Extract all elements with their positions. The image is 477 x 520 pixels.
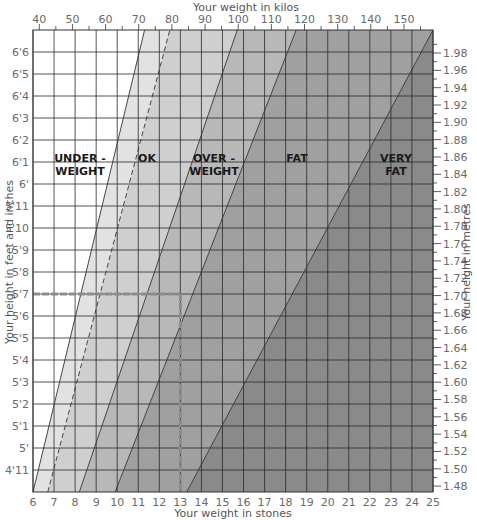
kilo-tick-label: 50 bbox=[65, 13, 79, 26]
zone-label-overweight: OVER - bbox=[193, 152, 235, 165]
zone-label-underweight: UNDER - bbox=[54, 152, 106, 165]
height-ft-tick-label: 6'3 bbox=[12, 112, 29, 125]
stone-tick-label: 25 bbox=[426, 496, 440, 509]
stone-tick-label: 21 bbox=[342, 496, 356, 509]
kilo-tick-label: 80 bbox=[165, 13, 179, 26]
kilo-tick-label: 70 bbox=[132, 13, 146, 26]
stone-tick-label: 24 bbox=[405, 496, 419, 509]
kilo-tick-label: 140 bbox=[360, 13, 381, 26]
stone-tick-label: 7 bbox=[51, 496, 58, 509]
y2-axis-title: Your height in metres bbox=[460, 203, 473, 322]
height-ft-tick-label: 5' bbox=[19, 442, 29, 455]
height-m-tick-label: 1.66 bbox=[443, 324, 468, 337]
height-ft-tick-label: 6' bbox=[19, 178, 29, 191]
height-ft-tick-label: 6'4 bbox=[12, 90, 29, 103]
kilo-tick-label: 120 bbox=[294, 13, 315, 26]
height-m-tick-label: 1.88 bbox=[443, 134, 468, 147]
kilo-tick-label: 60 bbox=[99, 13, 113, 26]
height-m-tick-label: 1.64 bbox=[443, 342, 468, 355]
kilo-tick-label: 150 bbox=[393, 13, 414, 26]
height-m-tick-label: 1.54 bbox=[443, 428, 468, 441]
height-m-tick-label: 1.92 bbox=[443, 99, 468, 112]
height-ft-tick-label: 5'2 bbox=[12, 398, 29, 411]
stone-tick-label: 8 bbox=[72, 496, 79, 509]
x2-axis-title: Your weight in kilos bbox=[192, 1, 299, 14]
height-m-tick-label: 1.50 bbox=[443, 463, 468, 476]
kilo-tick-label: 130 bbox=[327, 13, 348, 26]
stone-tick-label: 10 bbox=[110, 496, 124, 509]
zone-label-fat: FAT bbox=[286, 152, 308, 165]
stone-tick-label: 9 bbox=[93, 496, 100, 509]
stone-tick-label: 22 bbox=[363, 496, 377, 509]
stone-tick-label: 20 bbox=[321, 496, 335, 509]
height-m-tick-label: 1.98 bbox=[443, 47, 468, 60]
height-m-tick-label: 1.56 bbox=[443, 411, 468, 424]
kilo-tick-label: 40 bbox=[32, 13, 46, 26]
stone-tick-label: 19 bbox=[300, 496, 314, 509]
zone-label-line2: WEIGHT bbox=[55, 165, 105, 178]
height-m-tick-label: 1.62 bbox=[443, 359, 468, 372]
y-axis-title: Your height in feet and inches bbox=[3, 180, 16, 345]
height-ft-tick-label: 4'11 bbox=[5, 464, 29, 477]
stone-tick-label: 12 bbox=[152, 496, 166, 509]
stone-tick-label: 23 bbox=[384, 496, 398, 509]
height-ft-tick-label: 6'2 bbox=[12, 134, 29, 147]
height-ft-tick-label: 6'5 bbox=[12, 68, 29, 81]
height-m-tick-label: 1.94 bbox=[443, 82, 468, 95]
zone-bands bbox=[33, 30, 433, 492]
kilo-tick-label: 100 bbox=[228, 13, 249, 26]
height-ft-tick-label: 5'3 bbox=[12, 376, 29, 389]
height-ft-tick-label: 5'4 bbox=[12, 354, 29, 367]
height-ft-tick-label: 5'1 bbox=[12, 420, 29, 433]
kilos-axis: 405060708090100110120130140150 bbox=[32, 13, 420, 30]
bmi-chart: UNDER -WEIGHTOKOVER -WEIGHTFATVERYFAT 40… bbox=[0, 0, 477, 520]
height-m-tick-label: 1.52 bbox=[443, 445, 468, 458]
height-m-tick-label: 1.82 bbox=[443, 186, 468, 199]
stone-tick-label: 6 bbox=[30, 496, 37, 509]
height-m-tick-label: 1.90 bbox=[443, 116, 468, 129]
height-m-tick-label: 1.60 bbox=[443, 376, 468, 389]
x-axis-title: Your weight in stones bbox=[173, 507, 292, 520]
height-m-tick-label: 1.96 bbox=[443, 64, 468, 77]
zone-label-line2: FAT bbox=[385, 165, 407, 178]
kilo-tick-label: 110 bbox=[261, 13, 282, 26]
height-m-tick-label: 1.86 bbox=[443, 151, 468, 164]
height-ft-tick-label: 6'1 bbox=[12, 156, 29, 169]
stone-tick-label: 11 bbox=[131, 496, 145, 509]
zone-label-ok-light: OK bbox=[138, 152, 156, 165]
height-ft-tick-label: 6'6 bbox=[12, 46, 29, 59]
height-m-tick-label: 1.58 bbox=[443, 393, 468, 406]
zone-label-line2: WEIGHT bbox=[189, 165, 239, 178]
height-m-tick-label: 1.84 bbox=[443, 168, 468, 181]
kilo-tick-label: 90 bbox=[198, 13, 212, 26]
height-m-tick-label: 1.48 bbox=[443, 480, 468, 493]
zone-label-very-fat: VERY bbox=[380, 152, 413, 165]
